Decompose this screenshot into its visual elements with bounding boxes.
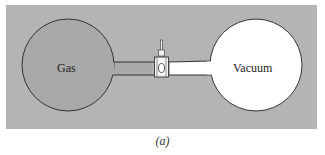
gas-label: Gas	[57, 61, 76, 75]
valve-icon[interactable]	[155, 40, 169, 77]
gas-expansion-diagram: Gas Vacuum	[0, 0, 325, 155]
figure-caption: (a)	[0, 134, 325, 149]
vacuum-label: Vacuum	[233, 61, 273, 75]
